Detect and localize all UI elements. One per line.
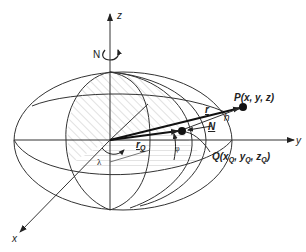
point-p-label: P(x, y, z) [234,92,275,103]
normal-label: N [208,121,216,132]
point-q [178,127,186,135]
point-q-label: Q(xQ, yQ, zQ) [212,151,271,164]
y-axis-label: y [295,135,302,146]
x-axis [20,140,110,232]
latitude-label: φ [175,144,180,153]
z-axis-label: z [116,10,122,21]
north-label: N [93,49,100,60]
longitude-label: λ [97,157,102,167]
rotation-arrow-icon [103,50,119,60]
x-axis-label: x [11,233,18,244]
diagram-canvas: z y x N P(x, y, z) Q(xQ, yQ, zQ) r rQ N … [0,0,306,252]
ellipsoid-diagram: z y x N P(x, y, z) Q(xQ, yQ, zQ) r rQ N … [0,0,306,252]
height-label: h [224,112,230,123]
point-p [239,103,247,111]
